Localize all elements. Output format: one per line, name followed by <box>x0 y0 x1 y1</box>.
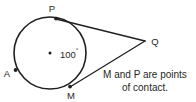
degree-symbol-icon: ° <box>76 47 79 53</box>
caption-line-2: of contact. <box>94 82 196 95</box>
caption-line-1: M and P are points <box>94 69 196 82</box>
angle-value-label: 100° <box>60 47 79 60</box>
point-marker-a <box>14 68 18 72</box>
point-marker-p <box>54 17 58 21</box>
label-point-m: M <box>67 90 75 101</box>
label-point-p: P <box>49 3 55 14</box>
angle-number: 100 <box>60 49 76 60</box>
label-point-q: Q <box>151 36 158 47</box>
center-dot-marker <box>49 52 52 55</box>
label-point-a: A <box>4 68 11 79</box>
point-marker-m <box>68 85 72 89</box>
geometry-figure: P M A Q 100° M and P are points of conta… <box>0 0 196 102</box>
caption: M and P are points of contact. <box>94 69 196 94</box>
tangent-segment-pq <box>56 19 145 41</box>
